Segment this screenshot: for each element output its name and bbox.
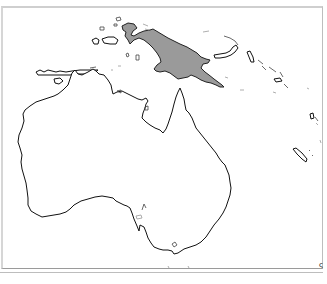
bottom-strip [0, 272, 323, 284]
region-sumba [54, 78, 63, 84]
islet [143, 24, 148, 26]
islet [100, 27, 104, 30]
region-new-britain [214, 45, 238, 58]
region-bougainville [247, 51, 254, 62]
region-seram [102, 37, 118, 44]
region-tasmania [168, 266, 169, 268]
islet [320, 140, 321, 143]
islet [126, 53, 129, 57]
islet [258, 60, 263, 64]
islet [262, 66, 266, 70]
islet [114, 24, 117, 26]
corner-mark: ς [319, 260, 323, 269]
islet [280, 72, 283, 77]
region-new-ireland [224, 36, 238, 45]
region-new-caledonia [293, 148, 307, 162]
region-guadalcanal [274, 78, 282, 82]
islet [284, 84, 288, 88]
islet [225, 77, 228, 78]
region-australia[interactable] [18, 69, 231, 254]
islet [312, 155, 313, 156]
region-buru [92, 38, 99, 44]
islet [307, 88, 309, 89]
islet [269, 67, 276, 72]
region-vanuatu [310, 113, 314, 119]
islet [203, 31, 209, 32]
islet [145, 29, 149, 30]
map-canvas [0, 0, 327, 284]
islet [188, 266, 189, 268]
islet [316, 123, 318, 125]
islet [273, 92, 276, 93]
islet [315, 117, 318, 121]
islet [116, 17, 121, 21]
islet [309, 150, 310, 151]
islet [136, 55, 139, 60]
islet [90, 67, 96, 68]
